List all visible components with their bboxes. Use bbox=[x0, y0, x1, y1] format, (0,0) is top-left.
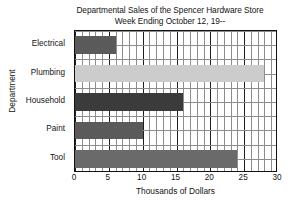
x-axis-tick-label: 0 bbox=[72, 173, 77, 182]
chart-subtitle: Week Ending October 12, 19-- bbox=[52, 16, 288, 27]
bar bbox=[75, 65, 264, 83]
x-axis-tick-label: 10 bbox=[137, 173, 146, 182]
chart-title: Departmental Sales of the Spencer Hardwa… bbox=[52, 5, 288, 16]
plot-area bbox=[74, 30, 277, 172]
y-axis-tick-label: Plumbing bbox=[31, 68, 65, 77]
bar-chart: Departmental Sales of the Spencer Hardwa… bbox=[0, 0, 293, 212]
y-axis-tick-label: Electrical bbox=[32, 39, 65, 48]
y-axis-tick-labels: ElectricalPlumbingHouseholdPaintTool bbox=[0, 30, 70, 172]
x-axis-tick-labels: 051015202530 bbox=[74, 173, 277, 185]
x-axis-title: Thousands of Dollars bbox=[74, 186, 277, 196]
x-axis-tick-label: 25 bbox=[239, 173, 248, 182]
bar bbox=[75, 122, 143, 140]
x-axis-tick-label: 15 bbox=[171, 173, 180, 182]
bar bbox=[75, 36, 116, 54]
x-axis-tick-label: 20 bbox=[205, 173, 214, 182]
x-axis-tick-label: 30 bbox=[272, 173, 281, 182]
x-axis-tick-label: 5 bbox=[106, 173, 111, 182]
bars-group bbox=[75, 31, 276, 171]
y-axis-tick-label: Household bbox=[26, 96, 65, 105]
bar bbox=[75, 93, 183, 111]
y-axis-tick-label: Paint bbox=[46, 124, 65, 133]
y-axis-tick-label: Tool bbox=[50, 153, 65, 162]
chart-title-block: Departmental Sales of the Spencer Hardwa… bbox=[52, 5, 288, 26]
bar bbox=[75, 150, 237, 168]
